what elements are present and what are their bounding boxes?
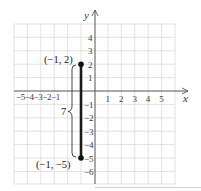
x-tick-2: 2 (119, 94, 124, 104)
y-tick-neg1: −1 (84, 100, 94, 110)
brace-distance-label: 7 (61, 106, 66, 117)
y-tick-neg2: −2 (84, 113, 94, 123)
y-tick-neg3: −3 (84, 127, 94, 137)
point-top (78, 61, 84, 67)
y-tick-neg5: −5 (84, 154, 94, 164)
x-tick-4: 4 (146, 94, 151, 104)
x-tick-1: 1 (106, 94, 111, 104)
point-bottom-label: (−1, −5) (36, 159, 71, 171)
point-top-label: (−1, 2) (44, 54, 73, 66)
y-tick-neg6: −6 (84, 167, 94, 177)
x-tick-3: 3 (132, 94, 137, 104)
y-axis-label: y (83, 9, 89, 21)
y-tick-neg4: −4 (84, 140, 94, 150)
point-bottom (78, 155, 84, 161)
x-tick-5: 5 (159, 94, 164, 104)
brace (68, 65, 76, 157)
x-tick-labels-negative: −5−4−3−2−1 (16, 92, 60, 102)
x-axis-label: x (182, 92, 188, 104)
y-tick-3: 3 (88, 46, 93, 56)
y-tick-4: 4 (88, 33, 93, 43)
y-tick-2: 2 (88, 60, 93, 70)
coordinate-plane: y x −5−4−3−2−1 1 2 3 4 5 4 3 2 1 −1 −2 −… (0, 0, 201, 191)
y-tick-1: 1 (88, 73, 93, 83)
